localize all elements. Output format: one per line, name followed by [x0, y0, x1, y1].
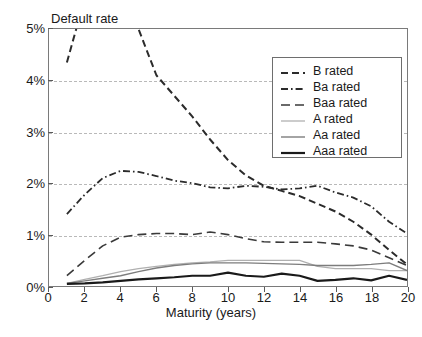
x-axis-tick-label: 18 [365, 290, 379, 305]
series-line-a-rated [67, 260, 407, 283]
y-axis-tickmark [48, 28, 53, 29]
legend-label: A rated [313, 112, 353, 126]
x-axis-tick-label: 10 [221, 290, 235, 305]
legend-item-baa-rated[interactable]: Baa rated [280, 95, 401, 111]
legend-label: B rated [313, 64, 353, 78]
x-axis-tickmark [120, 287, 121, 292]
x-axis-tick-label: 4 [116, 290, 123, 305]
legend: B ratedBa ratedBaa ratedA ratedAa ratedA… [272, 57, 402, 158]
x-axis-tick-label: 12 [257, 290, 271, 305]
x-axis-tickmark [192, 287, 193, 292]
x-axis-tick-label: 14 [293, 290, 307, 305]
chart-figure: Default rate 0%1%2%3%4%5% 02468101214161… [0, 0, 422, 337]
legend-item-aa-rated[interactable]: Aa rated [280, 127, 401, 143]
x-axis-tickmark [84, 287, 85, 292]
y-axis-tickmark [48, 132, 53, 133]
legend-label: Aaa rated [313, 144, 367, 158]
legend-label: Ba rated [313, 80, 360, 94]
y-axis-tick-label: 4% [26, 72, 45, 87]
x-axis-tickmark [156, 287, 157, 292]
legend-item-a-rated[interactable]: A rated [280, 111, 401, 127]
y-axis-tick-label: 3% [26, 124, 45, 139]
legend-swatch-icon [280, 97, 306, 109]
x-axis-tick-label: 8 [188, 290, 195, 305]
x-axis-tick-label: 2 [80, 290, 87, 305]
legend-swatch-icon [280, 81, 306, 93]
x-axis-tickmark [408, 287, 409, 292]
legend-swatch-icon [280, 145, 306, 157]
legend-label: Baa rated [313, 96, 367, 110]
y-axis-tick-label: 2% [26, 176, 45, 191]
x-axis-tick-label: 6 [152, 290, 159, 305]
y-axis-tick-label: 5% [26, 21, 45, 36]
x-axis-tickmark [264, 287, 265, 292]
cropped-header-text [0, 0, 422, 10]
legend-swatch-icon [280, 113, 306, 125]
x-axis-title: Maturity (years) [0, 305, 422, 320]
x-axis-tick-label: 0 [44, 290, 51, 305]
legend-label: Aa rated [313, 128, 360, 142]
y-axis-tickmark [48, 235, 53, 236]
y-axis-ticks: 0%1%2%3%4%5% [0, 28, 45, 287]
y-axis-tickmark [48, 183, 53, 184]
legend-swatch-icon [280, 129, 306, 141]
x-axis-tickmark [336, 287, 337, 292]
y-axis-tickmark [48, 80, 53, 81]
legend-item-b-rated[interactable]: B rated [280, 63, 401, 79]
y-axis-tick-label: 1% [26, 228, 45, 243]
x-axis-tickmark [228, 287, 229, 292]
x-axis-tick-label: 20 [401, 290, 415, 305]
series-line-aaa-rated [67, 273, 407, 284]
x-axis-tickmark [48, 287, 49, 292]
legend-item-aaa-rated[interactable]: Aaa rated [280, 143, 401, 159]
series-line-ba-rated [67, 171, 407, 234]
x-axis-tickmark [372, 287, 373, 292]
legend-item-ba-rated[interactable]: Ba rated [280, 79, 401, 95]
x-axis-tick-label: 16 [329, 290, 343, 305]
legend-swatch-icon [280, 65, 306, 77]
y-axis-title: Default rate [51, 11, 118, 26]
x-axis-tickmark [300, 287, 301, 292]
